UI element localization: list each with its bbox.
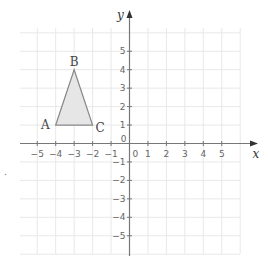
y-tick-label: 5 [120, 46, 126, 56]
x-tick-label: −5 [31, 149, 44, 159]
x-tick-label: 5 [219, 149, 225, 159]
vertex-label-b: B [70, 55, 79, 69]
y-tick-label: 1 [120, 120, 126, 130]
x-tick-label: −4 [49, 149, 63, 159]
x-tick-label: −2 [86, 149, 99, 159]
grid [20, 28, 240, 254]
y-axis-label: y [116, 8, 124, 22]
triangle-abc [56, 70, 93, 125]
x-axis-label: x [253, 147, 260, 161]
x-tick-label: 3 [182, 149, 188, 159]
y-tick-label: −4 [112, 212, 126, 222]
coordinate-plane: −5−4−3−2−1123455432100−1−2−3−4−5xyABC . [0, 0, 268, 270]
x-tick-label: 4 [200, 149, 206, 159]
y-axis-arrow-icon [127, 10, 133, 18]
y-tick-label: −3 [112, 194, 125, 204]
origin-label-x: 0 [133, 149, 139, 159]
y-tick-label: 4 [120, 65, 126, 75]
x-tick-label: 2 [164, 149, 170, 159]
stray-dot: . [4, 167, 7, 177]
x-tick-label: −3 [68, 149, 81, 159]
y-tick-label: −1 [112, 157, 125, 167]
vertex-label-c: C [96, 121, 105, 135]
triangle-shape [56, 70, 93, 125]
origin-label: 0 [121, 134, 127, 144]
y-tick-label: 2 [120, 102, 126, 112]
y-tick-label: 3 [120, 83, 126, 93]
y-tick-label: −2 [112, 175, 125, 185]
y-tick-label: −5 [112, 231, 125, 241]
x-tick-label: 1 [145, 149, 151, 159]
vertex-label-a: A [40, 118, 50, 132]
